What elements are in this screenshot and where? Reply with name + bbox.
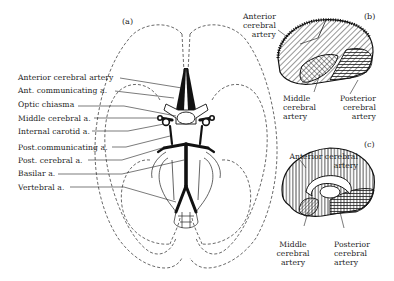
label-b-posterior: Posterior cerebral artery xyxy=(336,94,376,121)
arterial-supply-diagram xyxy=(0,0,394,281)
label-middle-cerebral: Middle cerebral a. xyxy=(18,114,91,123)
label-b-anterior: Anterior cerebral artery xyxy=(236,12,276,39)
label-vertebral: Vertebral a. xyxy=(18,183,64,192)
panel-label-b: (b) xyxy=(364,12,375,21)
label-post-communicating: Post.communicating a. xyxy=(18,143,108,152)
label-c-middle: Middle cerebral artery xyxy=(270,240,316,267)
label-optic-chiasma: Optic chiasma xyxy=(18,100,74,109)
label-ant-communicating: Ant. communicating a. xyxy=(18,86,107,95)
label-post-cerebral: Post. cerebral a. xyxy=(18,156,83,165)
label-basilar: Basilar a. xyxy=(18,169,55,178)
label-c-anterior: Anterior cerebral artery xyxy=(284,152,358,170)
label-anterior-cerebral-artery: Anterior cerebral artery xyxy=(18,73,113,82)
panel-label-a: (a) xyxy=(122,17,133,26)
label-c-posterior: Posterior cerebral artery xyxy=(334,240,370,267)
lateral-hemisphere xyxy=(278,20,373,94)
label-b-middle: Middle cerebral artery xyxy=(283,94,316,121)
anterior-cerebral-arteries xyxy=(176,68,196,110)
leader-lines-a xyxy=(58,78,184,202)
label-internal-carotid: Internal carotid a. xyxy=(18,127,90,136)
panel-label-c: (c) xyxy=(364,140,375,149)
